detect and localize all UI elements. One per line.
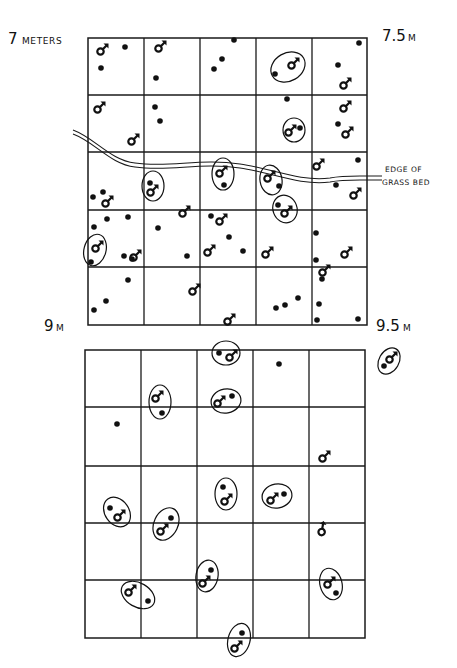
male-symbol-icon <box>226 350 237 361</box>
mating-pair <box>80 232 110 269</box>
female-dot-icon <box>114 421 120 427</box>
label-7-meters-unit: METERS <box>22 36 62 46</box>
female-dot-icon <box>88 259 94 265</box>
mating-pair <box>265 46 310 88</box>
mating-pair <box>224 621 254 660</box>
male-symbol-icon <box>147 185 158 196</box>
mating-pair <box>215 478 237 510</box>
female-dot-icon <box>319 276 325 282</box>
female-dot-icon <box>226 234 232 240</box>
female-dot-icon <box>313 230 319 236</box>
female-dot-icon <box>107 505 113 511</box>
mating-pair <box>269 192 301 227</box>
male-symbol-icon <box>152 391 163 402</box>
female-dot-icon <box>103 298 109 304</box>
male-symbol-icon <box>386 352 397 363</box>
pair-ellipse <box>224 621 254 660</box>
female-dot-icon <box>125 277 131 283</box>
mating-pair <box>373 344 404 378</box>
male-symbol-icon <box>157 524 168 535</box>
mating-pair <box>116 576 159 615</box>
label-9-m-number: 9 <box>44 317 54 335</box>
female-dot-icon <box>276 183 282 189</box>
female-dot-icon <box>221 182 227 188</box>
female-dot-icon <box>239 630 245 636</box>
male-symbol-icon <box>340 78 351 89</box>
female-dot-icon <box>231 37 237 43</box>
female-dot-icon <box>104 216 110 222</box>
male-symbol-icon <box>342 127 353 138</box>
female-dot-icon <box>273 305 279 311</box>
label-9-5-m-number: 9.5 <box>376 317 400 335</box>
female-dot-icon <box>98 65 104 71</box>
female-dot-icon <box>284 96 290 102</box>
label-7-meters-number: 7 <box>8 30 18 48</box>
mating-pair <box>148 504 184 545</box>
mating-pair <box>209 387 243 416</box>
male-symbol-icon <box>155 41 166 52</box>
male-symbol-icon <box>92 241 103 252</box>
female-dot-icon <box>295 295 301 301</box>
mating-pair <box>260 482 294 511</box>
female-dot-icon <box>168 515 174 521</box>
female-dot-icon <box>275 202 281 208</box>
female-dot-icon <box>355 157 361 163</box>
label-9-m-unit: M <box>56 323 64 333</box>
mating-pair <box>212 341 240 365</box>
male-symbol-icon <box>341 247 352 258</box>
pair-ellipse <box>98 492 136 532</box>
label-grass-bed: GRASS BED <box>382 178 430 187</box>
male-symbol-icon <box>94 102 105 113</box>
pair-ellipse <box>80 232 110 269</box>
male-symbol-icon <box>204 245 215 256</box>
male-symbol-icon <box>224 314 235 325</box>
female-dot-icon <box>220 484 226 490</box>
label-7-5-m-number: 7.5 <box>382 27 406 45</box>
pair-ellipse <box>212 341 240 365</box>
female-dot-icon <box>316 301 322 307</box>
female-dot-icon <box>211 66 217 72</box>
female-dot-icon <box>219 56 225 62</box>
female-dot-icon <box>121 253 127 259</box>
female-dot-icon <box>335 121 341 127</box>
male-symbol-icon <box>340 101 351 112</box>
male-symbol-icon <box>281 206 292 217</box>
female-dot-icon <box>184 253 190 259</box>
male-symbol-icon <box>231 641 242 652</box>
label-7-5-m-unit: M <box>408 33 416 43</box>
female-dot-icon <box>100 189 106 195</box>
male-symbol-icon <box>221 494 232 505</box>
male-symbol-icon <box>350 188 361 199</box>
mating-pair <box>142 171 164 201</box>
female-dot-icon <box>157 118 163 124</box>
mating-pair <box>283 118 305 142</box>
female-dot-icon <box>276 361 282 367</box>
female-dot-icon <box>145 598 151 604</box>
female-dot-icon <box>297 125 303 131</box>
male-symbol-icon <box>102 196 113 207</box>
female-dot-icon <box>229 393 235 399</box>
male-symbol-icon <box>189 284 200 295</box>
male-symbol-icon <box>288 58 299 69</box>
male-symbol-icon <box>216 166 227 177</box>
female-dot-icon <box>91 307 97 313</box>
female-dot-icon <box>282 302 288 308</box>
mating-pair <box>149 385 171 419</box>
male-symbol-icon <box>324 577 335 588</box>
pair-ellipse <box>373 344 404 378</box>
male-symbol-icon <box>128 134 139 145</box>
label-9-5-m-unit: M <box>403 323 411 333</box>
pipefish-distribution-map: 7 METERS 7.5 M 9 M 9.5 M EDGE OF GRASS B… <box>0 0 457 668</box>
female-dot-icon <box>333 182 339 188</box>
male-symbol-icon <box>319 265 330 276</box>
female-dot-icon <box>313 257 319 263</box>
female-dot-icon <box>335 62 341 68</box>
animal-markers <box>80 37 404 659</box>
grass-bed-edge-line <box>73 130 382 183</box>
male-symbol-icon <box>199 576 210 587</box>
female-dot-icon <box>152 104 158 110</box>
female-dot-icon <box>355 316 361 322</box>
pair-ellipse <box>269 192 301 227</box>
male-symbol-icon <box>114 510 125 521</box>
female-dot-icon <box>155 225 161 231</box>
